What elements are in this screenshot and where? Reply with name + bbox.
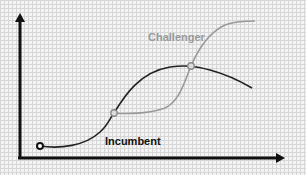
- x-axis-arrow-icon: [276, 153, 285, 163]
- y-axis-arrow-icon: [15, 13, 25, 22]
- challenger-label: Challenger: [148, 31, 205, 43]
- intersection-marker-1: [111, 110, 117, 116]
- x-axis: [18, 153, 285, 163]
- intersection-marker-2: [188, 63, 194, 69]
- plot-area: [0, 0, 306, 175]
- start-point-marker: [37, 143, 43, 149]
- y-axis: [15, 13, 25, 158]
- chart-canvas: Challenger Incumbent: [0, 0, 306, 175]
- incumbent-label: Incumbent: [105, 135, 161, 147]
